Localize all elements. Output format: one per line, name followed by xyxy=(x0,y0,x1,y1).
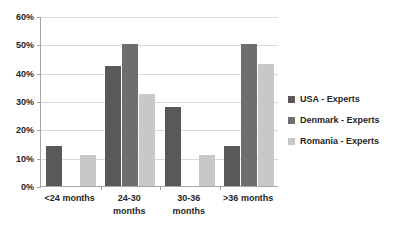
y-axis-label: 10% xyxy=(0,154,34,164)
bar xyxy=(165,107,181,186)
x-axis-label: 30-36months xyxy=(159,192,219,218)
x-axis-label-line: months xyxy=(159,205,219,218)
bar xyxy=(241,44,257,186)
x-axis-label: >36 months xyxy=(219,192,279,205)
legend-label: USA - Experts xyxy=(300,94,360,104)
y-axis-label: 0% xyxy=(0,182,34,192)
chart-legend: USA - ExpertsDenmark - ExpertsRomania - … xyxy=(288,94,380,146)
y-axis-label: 50% xyxy=(0,40,34,50)
y-axis-label: 30% xyxy=(0,97,34,107)
legend-swatch-icon xyxy=(288,117,295,124)
legend-label: Romania - Experts xyxy=(300,136,379,146)
legend-item[interactable]: Romania - Experts xyxy=(288,136,380,146)
bar xyxy=(258,64,274,186)
x-axis-label-line: 30-36 xyxy=(159,192,219,205)
x-axis-tick xyxy=(160,186,161,190)
legend-item[interactable]: USA - Experts xyxy=(288,94,380,104)
bar-group xyxy=(160,17,220,186)
legend-item[interactable]: Denmark - Experts xyxy=(288,115,380,125)
bar-chart: 0%10%20%30%40%50%60% <24 months24-30mont… xyxy=(0,0,397,238)
bar-group xyxy=(220,17,280,186)
bar xyxy=(122,44,138,186)
legend-swatch-icon xyxy=(288,96,295,103)
bar xyxy=(46,146,62,186)
legend-label: Denmark - Experts xyxy=(300,115,380,125)
y-axis-label: 60% xyxy=(0,12,34,22)
x-axis-label-line: >36 months xyxy=(219,192,279,205)
bar xyxy=(139,94,155,186)
bar-group xyxy=(41,17,101,186)
x-axis-label-line: months xyxy=(100,205,160,218)
x-axis-tick xyxy=(101,186,102,190)
bar xyxy=(105,66,121,186)
bar xyxy=(199,155,215,186)
y-axis-label: 20% xyxy=(0,125,34,135)
y-axis-tick xyxy=(37,187,41,188)
x-axis-tick xyxy=(220,186,221,190)
legend-swatch-icon xyxy=(288,138,295,145)
y-axis-label: 40% xyxy=(0,69,34,79)
x-axis-label-line: <24 months xyxy=(40,192,100,205)
x-axis-label: 24-30months xyxy=(100,192,160,218)
plot-area xyxy=(40,17,278,187)
x-axis-label-line: 24-30 xyxy=(100,192,160,205)
bar xyxy=(80,155,96,186)
bar-group xyxy=(101,17,161,186)
bar xyxy=(224,146,240,186)
x-axis-label: <24 months xyxy=(40,192,100,205)
